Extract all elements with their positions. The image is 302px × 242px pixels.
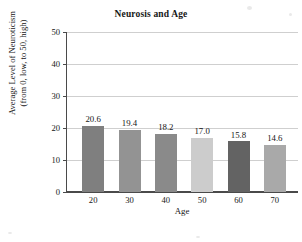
x-tick-label: 70 xyxy=(271,196,280,205)
bar: 14.6 xyxy=(264,145,286,192)
y-tick-mark xyxy=(63,96,67,97)
y-tick-label: 0 xyxy=(56,188,60,197)
x-tick-label: 30 xyxy=(125,196,134,205)
y-tick-mark xyxy=(63,32,67,33)
x-axis-title: Age xyxy=(66,206,298,216)
gridline xyxy=(66,32,298,33)
bar-value-label: 15.8 xyxy=(231,131,246,140)
y-axis-title: Average Level of Neuroticism (from 0, lo… xyxy=(1,0,35,153)
gridline xyxy=(66,96,298,97)
y-tick-label: 40 xyxy=(51,60,60,69)
y-tick-mark xyxy=(63,128,67,129)
bar-value-label: 19.4 xyxy=(122,119,137,128)
y-tick-label: 50 xyxy=(51,28,60,37)
scan-speckle xyxy=(196,236,200,238)
y-tick-label: 30 xyxy=(51,92,60,101)
x-tick-label: 50 xyxy=(198,196,207,205)
x-tick-label: 20 xyxy=(89,196,98,205)
bar-value-label: 17.0 xyxy=(194,127,209,136)
chart-figure: Neurosis and Age Average Level of Neurot… xyxy=(0,0,302,242)
y-tick-label: 20 xyxy=(51,124,60,133)
y-tick-mark xyxy=(63,160,67,161)
y-axis-title-line-1: Average Level of Neuroticism xyxy=(7,11,18,115)
y-tick-mark xyxy=(63,192,67,193)
gridline xyxy=(66,64,298,65)
bar-value-label: 14.6 xyxy=(267,134,282,143)
bar-value-label: 18.2 xyxy=(158,123,173,132)
bar: 18.2 xyxy=(155,134,177,192)
scan-speckle xyxy=(8,232,12,234)
bar: 15.8 xyxy=(228,141,250,192)
x-tick-label: 60 xyxy=(234,196,243,205)
y-axis-line xyxy=(66,32,67,192)
y-tick-mark xyxy=(63,64,67,65)
plot-area: 01020304050 20.619.418.217.015.814.6 203… xyxy=(66,32,298,192)
bar: 17.0 xyxy=(191,138,213,192)
y-axis-title-line-2: (from 0, low, to 50, high) xyxy=(18,11,29,115)
bar: 20.6 xyxy=(82,126,104,192)
y-tick-label: 10 xyxy=(51,156,60,165)
chart-title: Neurosis and Age xyxy=(0,9,302,19)
bar: 19.4 xyxy=(119,130,141,192)
bar-value-label: 20.6 xyxy=(85,115,100,124)
x-tick-label: 40 xyxy=(162,196,171,205)
